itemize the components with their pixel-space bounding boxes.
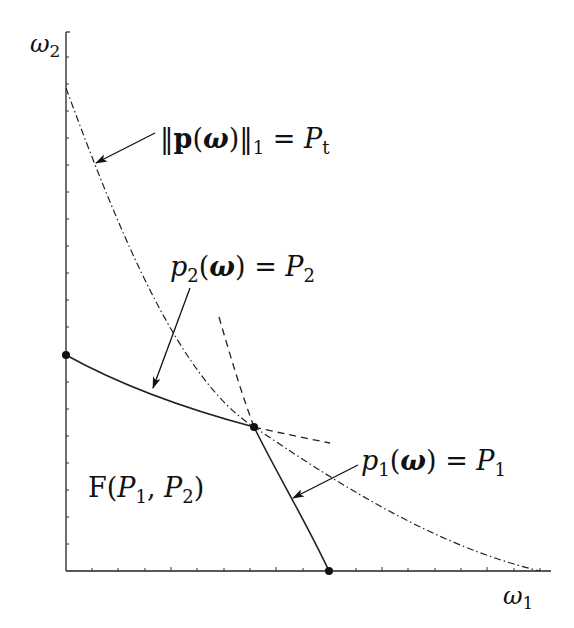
p1-arrow	[293, 465, 358, 498]
x-axis-label: ω1	[503, 582, 533, 613]
p1-constraint-extension	[219, 317, 254, 427]
y-axis-label: ω2	[30, 30, 60, 61]
total-power-label: ‖p(ω)‖1 = Pt	[160, 123, 330, 158]
feasible-region-diagram: ω2 ω1 ‖p(ω)‖1 = Pt p2(ω) = P2 p1(ω) = P1…	[0, 0, 574, 628]
p1-constraint-curve	[254, 427, 329, 571]
y-intercept-point	[62, 351, 70, 359]
feasible-region-label: F(P1, P2)	[88, 472, 204, 507]
p1-constraint-label: p1(ω) = P1	[361, 445, 506, 480]
p2-arrow	[153, 288, 190, 388]
x-intercept-point	[325, 567, 333, 575]
intersection-point	[250, 423, 258, 431]
p2-constraint-label: p2(ω) = P2	[170, 251, 315, 286]
p2-constraint-curve	[66, 355, 254, 427]
total-power-arrow	[96, 133, 155, 163]
